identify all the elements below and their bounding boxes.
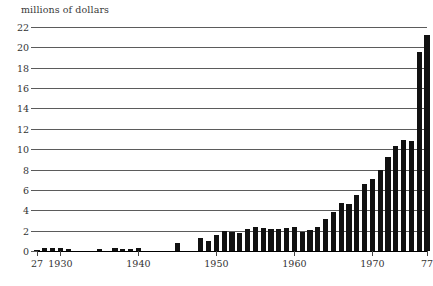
gridline xyxy=(37,149,427,150)
bar xyxy=(331,212,336,251)
y-axis-tick xyxy=(31,27,37,28)
y-axis-tick xyxy=(31,231,37,232)
y-axis-tick-label: 2 xyxy=(23,225,29,236)
bar xyxy=(401,140,406,251)
bar xyxy=(307,230,312,251)
y-axis-tick-label: 0 xyxy=(23,246,29,257)
gridline xyxy=(37,27,427,28)
bar xyxy=(315,227,320,251)
y-axis-tick xyxy=(31,210,37,211)
x-axis-tick-label: 27 xyxy=(31,258,43,269)
gridline xyxy=(37,190,427,191)
bar xyxy=(120,249,125,251)
gridline xyxy=(37,129,427,130)
x-axis-tick-label: 1940 xyxy=(126,258,150,269)
axis-baseline xyxy=(37,251,427,252)
y-axis-tick xyxy=(31,47,37,48)
y-axis-tick-label: 14 xyxy=(17,103,29,114)
bar xyxy=(175,243,180,251)
y-axis-tick xyxy=(31,129,37,130)
bar xyxy=(128,249,133,251)
x-axis-tick xyxy=(60,251,61,256)
y-axis-tick-label: 6 xyxy=(23,184,29,195)
bar xyxy=(112,248,117,251)
bar xyxy=(417,52,422,251)
bar xyxy=(206,241,211,251)
bar xyxy=(354,195,359,251)
gridline xyxy=(37,210,427,211)
y-axis-tick-label: 10 xyxy=(17,144,29,155)
bar xyxy=(268,229,273,251)
plot-area: 0246810121416182022271930194019501960197… xyxy=(37,27,427,251)
bar xyxy=(222,231,227,251)
bar xyxy=(424,35,429,251)
y-axis-tick-label: 20 xyxy=(17,42,29,53)
x-axis-tick xyxy=(216,251,217,256)
bar xyxy=(237,233,242,251)
bar xyxy=(214,235,219,251)
bar xyxy=(50,248,55,251)
gridline xyxy=(37,108,427,109)
gridline xyxy=(37,47,427,48)
bar xyxy=(292,227,297,251)
bar xyxy=(261,228,266,251)
bar xyxy=(245,229,250,251)
bar xyxy=(198,238,203,251)
y-axis-tick xyxy=(31,68,37,69)
bar xyxy=(42,248,47,251)
y-axis-tick-label: 22 xyxy=(17,22,29,33)
bar xyxy=(393,146,398,251)
x-axis-tick xyxy=(294,251,295,256)
x-axis-tick-label: 1950 xyxy=(204,258,228,269)
gridline xyxy=(37,88,427,89)
bar xyxy=(346,204,351,251)
x-axis-tick-label: 77 xyxy=(421,258,433,269)
bar xyxy=(97,249,102,251)
bar xyxy=(409,141,414,251)
bar xyxy=(300,232,305,251)
bar xyxy=(362,184,367,251)
y-axis-tick-label: 8 xyxy=(23,164,29,175)
bar xyxy=(229,232,234,251)
y-axis-tick xyxy=(31,149,37,150)
gridline xyxy=(37,170,427,171)
bar xyxy=(276,229,281,251)
bar xyxy=(339,203,344,251)
bar xyxy=(370,179,375,251)
y-axis-tick xyxy=(31,88,37,89)
y-axis-tick xyxy=(31,170,37,171)
x-axis-tick-label: 1960 xyxy=(282,258,306,269)
y-axis-unit-label: millions of dollars xyxy=(21,4,109,15)
bar xyxy=(253,227,258,251)
x-axis-tick-label: 1930 xyxy=(48,258,72,269)
gridline xyxy=(37,68,427,69)
y-axis-tick xyxy=(31,108,37,109)
bar xyxy=(284,228,289,251)
bar xyxy=(66,249,71,251)
bar xyxy=(385,157,390,251)
bar xyxy=(378,170,383,251)
x-axis-tick xyxy=(37,251,38,256)
x-axis-tick-label: 1970 xyxy=(360,258,384,269)
y-axis-tick-label: 16 xyxy=(17,83,29,94)
y-axis-tick xyxy=(31,190,37,191)
x-axis-tick xyxy=(427,251,428,256)
bar xyxy=(323,219,328,251)
y-axis-tick-label: 18 xyxy=(17,62,29,73)
y-axis-tick-label: 12 xyxy=(17,123,29,134)
x-axis-tick xyxy=(138,251,139,256)
x-axis-tick xyxy=(372,251,373,256)
y-axis-tick-label: 4 xyxy=(23,205,29,216)
